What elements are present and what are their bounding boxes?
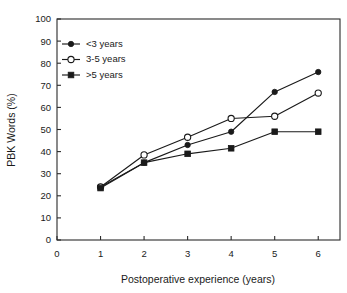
- data-point-2-0: [98, 185, 104, 191]
- y-tick-label-70: 70: [40, 80, 51, 91]
- y-tick-label-80: 80: [40, 58, 51, 69]
- data-point-0-3: [228, 129, 233, 134]
- x-tick-label-6: 6: [316, 248, 321, 259]
- data-point-2-4: [272, 129, 278, 135]
- series-line-2: [101, 132, 319, 188]
- x-tick-label-2: 2: [141, 248, 146, 259]
- data-point-2-2: [185, 151, 191, 157]
- data-point-0-4: [272, 89, 277, 94]
- series-line-1: [101, 93, 319, 187]
- x-tick-label-4: 4: [229, 248, 234, 259]
- y-tick-label-50: 50: [40, 124, 51, 135]
- y-axis-title: PBK Words (%): [5, 93, 17, 166]
- y-tick-label-10: 10: [40, 212, 51, 223]
- line-chart: 0102030405060708090100 0123456 PBK Words…: [0, 0, 347, 293]
- y-tick-label-20: 20: [40, 190, 51, 201]
- legend-marker-1: [68, 56, 74, 62]
- data-point-0-5: [316, 69, 321, 74]
- legend-item-1[interactable]: 3-5 years: [62, 53, 126, 64]
- series-line-0: [101, 72, 319, 187]
- data-point-2-5: [315, 129, 321, 135]
- data-point-1-1: [141, 152, 147, 158]
- x-tick-label-0: 0: [54, 248, 59, 259]
- data-point-1-3: [228, 115, 234, 121]
- legend-label-2: >5 years: [86, 69, 123, 80]
- data-point-0-2: [185, 142, 190, 147]
- data-point-2-3: [228, 145, 234, 151]
- chart-figure: 0102030405060708090100 0123456 PBK Words…: [0, 0, 347, 293]
- y-tick-label-30: 30: [40, 168, 51, 179]
- series-0: [98, 69, 321, 189]
- legend-item-2[interactable]: >5 years: [62, 69, 123, 80]
- x-axis-title: Postoperative experience (years): [121, 273, 275, 285]
- x-tick-label-5: 5: [272, 248, 277, 259]
- y-tick-label-0: 0: [46, 234, 51, 245]
- chart-legend: <3 years3-5 years>5 years: [62, 38, 126, 80]
- series-1: [97, 90, 321, 190]
- legend-label-1: 3-5 years: [86, 53, 126, 64]
- data-point-2-1: [141, 160, 147, 166]
- y-tick-label-100: 100: [35, 13, 51, 24]
- y-tick-label-40: 40: [40, 146, 51, 157]
- x-tick-label-1: 1: [98, 248, 103, 259]
- y-tick-label-60: 60: [40, 102, 51, 113]
- legend-marker-0: [68, 41, 73, 46]
- legend-label-0: <3 years: [86, 38, 123, 49]
- legend-marker-2: [68, 72, 74, 78]
- data-point-1-4: [272, 113, 278, 119]
- x-tick-label-3: 3: [185, 248, 190, 259]
- legend-item-0[interactable]: <3 years: [62, 38, 123, 49]
- data-point-1-2: [185, 134, 191, 140]
- data-point-1-5: [315, 90, 321, 96]
- y-tick-label-90: 90: [40, 36, 51, 47]
- data-series-group: [97, 69, 321, 191]
